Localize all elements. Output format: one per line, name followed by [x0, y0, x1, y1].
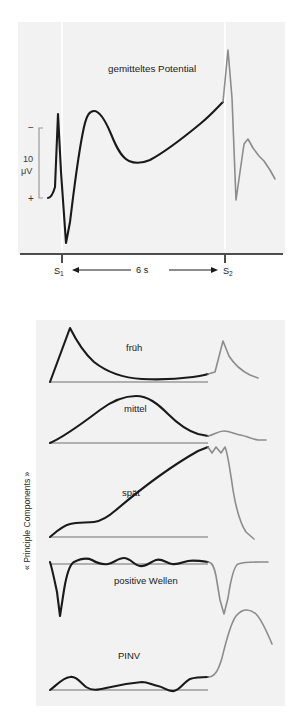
components-background	[36, 320, 285, 706]
principle-components-panel: « Principle Components » früh mittel	[18, 320, 285, 706]
principle-components-svg: « Principle Components » früh mittel	[18, 320, 285, 706]
trace-label-pinv: PINV	[118, 650, 141, 661]
averaged-potential-svg: − + 10 μV gemitteltes Potential S 1 S 2	[18, 22, 285, 277]
panel-title: gemitteltes Potential	[108, 63, 196, 74]
interval-arrowhead-left	[72, 267, 79, 273]
averaged-potential-panel: − + 10 μV gemitteltes Potential S 1 S 2	[18, 22, 285, 277]
figure-container: − + 10 μV gemitteltes Potential S 1 S 2	[0, 0, 303, 714]
scale-unit: μV	[21, 166, 33, 176]
interval-label: 6 s	[136, 265, 149, 275]
scale-plus-sign: +	[28, 193, 34, 204]
interval-arrowhead-right	[211, 267, 218, 273]
s1-subscript: 1	[60, 270, 64, 277]
scale-minus-sign: −	[28, 122, 34, 133]
trace-label-frueh: früh	[126, 342, 142, 353]
trace-label-positive-wellen: positive Wellen	[114, 575, 178, 586]
trace-label-mittel: mittel	[124, 403, 147, 414]
principle-components-axis-label: « Principle Components »	[22, 471, 32, 570]
s2-subscript: 2	[229, 270, 233, 277]
trace-label-spaet: spät	[122, 487, 140, 498]
scale-value: 10	[23, 154, 33, 164]
